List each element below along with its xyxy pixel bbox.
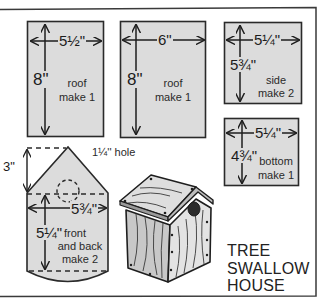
- title-line-2: SWALLOW: [227, 260, 310, 278]
- roof-a-width-label: 5½": [58, 33, 86, 48]
- roof-b-name: roof: [148, 77, 198, 90]
- roof-b-quantity: make 1: [148, 91, 198, 104]
- side-name: side: [258, 74, 294, 87]
- roof-b-width-label: 6": [157, 32, 173, 47]
- title-line-1: TREE: [227, 242, 270, 260]
- front-width-label: 5¾": [70, 201, 98, 216]
- entrance-hole-label: 1¼'' hole: [92, 146, 135, 159]
- side-height-label: 5¾": [230, 57, 256, 72]
- roof-a-quantity: make 1: [54, 91, 100, 104]
- side-width-label: 5¼": [253, 32, 281, 47]
- bottom-height-label: 4¾": [231, 148, 257, 163]
- bottom-quantity: make 1: [256, 169, 296, 182]
- roof-b-height-label: 8": [127, 71, 143, 88]
- tree-swallow-house-diagram: 5½" 8" roof make 1 6" 8" roof make 1 5¼"…: [0, 0, 322, 302]
- title-line-3: HOUSE: [227, 277, 285, 295]
- front-quantity: make 2: [58, 253, 102, 266]
- bottom-width-label: 5¼": [254, 125, 282, 140]
- front-name-line2: and back: [54, 240, 106, 253]
- side-quantity: make 2: [254, 87, 298, 100]
- roof-a-height-label: 8": [33, 71, 49, 88]
- birdhouse-illustration: [120, 175, 213, 282]
- bottom-name: bottom: [256, 155, 296, 168]
- roof-a-name: roof: [54, 77, 100, 90]
- front-peak-height-label: 3": [3, 160, 15, 173]
- front-name-line1: front: [64, 227, 104, 240]
- front-height-label: 5¼": [36, 225, 62, 240]
